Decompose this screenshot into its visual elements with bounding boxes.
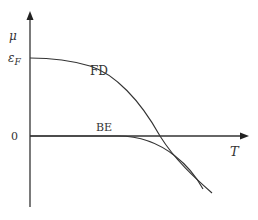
zero-label: 0 (11, 130, 18, 143)
y-axis-label: μ (9, 29, 17, 43)
be-label: BE (96, 121, 112, 134)
chemical-potential-diagram: μ εF 0 FD BE T (0, 0, 258, 220)
y-axis-arrow-icon (27, 11, 34, 20)
fd-label: FD (90, 64, 108, 78)
x-axis-label: T (230, 144, 240, 159)
x-axis-arrow-icon (240, 133, 249, 140)
fermi-energy-label: εF (8, 51, 21, 67)
diagram-canvas: μ εF 0 FD BE T (0, 0, 258, 220)
be-curve (30, 136, 203, 189)
fd-curve (30, 58, 212, 193)
